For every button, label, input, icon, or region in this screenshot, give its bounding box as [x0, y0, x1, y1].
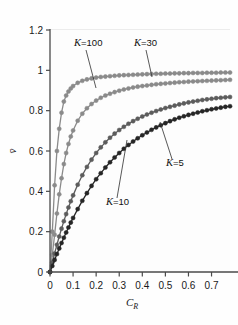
line-chart: 00.20.40.60.811.200.10.20.30.40.50.60.7 … — [0, 0, 238, 325]
data-point — [89, 158, 93, 162]
data-point — [80, 112, 84, 116]
data-point — [76, 119, 80, 123]
data-point — [136, 136, 140, 140]
data-point — [140, 72, 144, 76]
data-point — [200, 109, 204, 113]
data-point — [163, 106, 167, 110]
data-point — [140, 133, 144, 137]
data-point — [94, 151, 98, 155]
data-point — [219, 78, 223, 82]
data-point — [168, 81, 172, 85]
data-point — [103, 93, 107, 97]
data-point — [154, 125, 158, 129]
data-point — [59, 176, 63, 180]
data-point — [186, 80, 190, 84]
data-point — [214, 78, 218, 82]
data-point — [71, 216, 75, 220]
data-point — [71, 128, 75, 132]
data-point — [71, 84, 75, 88]
data-point — [59, 111, 63, 115]
data-point — [131, 139, 135, 143]
data-point — [154, 82, 158, 86]
data-point — [173, 117, 177, 121]
data-point — [182, 71, 186, 75]
data-point — [131, 85, 135, 89]
data-point — [209, 71, 213, 75]
data-point — [182, 101, 186, 105]
data-point — [168, 72, 172, 76]
data-point — [122, 87, 126, 91]
data-point — [94, 99, 98, 103]
data-point — [219, 71, 223, 75]
data-point — [205, 71, 209, 75]
data-point — [177, 71, 181, 75]
data-point — [59, 241, 63, 245]
data-point — [66, 142, 70, 146]
data-point — [89, 184, 93, 188]
data-point — [186, 100, 190, 104]
data-point — [85, 106, 89, 110]
data-point — [223, 105, 227, 109]
data-point — [113, 90, 117, 94]
data-point — [62, 162, 66, 166]
data-point — [168, 105, 172, 109]
data-point — [145, 130, 149, 134]
data-point — [69, 134, 73, 138]
data-point — [99, 75, 103, 79]
data-point — [113, 132, 117, 136]
data-point — [99, 171, 103, 175]
data-point — [177, 116, 181, 120]
data-point — [191, 79, 195, 83]
annotation-text: K=30 — [133, 37, 157, 48]
data-point — [136, 85, 140, 89]
data-point — [80, 79, 84, 83]
data-point — [59, 227, 63, 231]
data-point — [196, 110, 200, 114]
data-point — [85, 191, 89, 195]
data-point — [223, 78, 227, 82]
annotation-text: K=5 — [165, 157, 184, 168]
data-point — [191, 100, 195, 104]
data-point — [200, 71, 204, 75]
data-point — [103, 75, 107, 79]
data-point — [177, 80, 181, 84]
data-point — [80, 199, 84, 203]
chart-figure: 00.20.40.60.811.200.10.20.30.40.50.60.7 … — [0, 0, 238, 325]
data-point — [53, 233, 57, 237]
data-point — [64, 93, 68, 97]
data-point — [69, 199, 73, 203]
data-point — [108, 92, 112, 96]
data-point — [159, 82, 163, 86]
data-point — [163, 121, 167, 125]
data-point — [126, 143, 130, 147]
data-point — [149, 111, 153, 115]
data-point — [117, 73, 121, 77]
data-point — [122, 125, 126, 129]
y-tick-label: 0.6 — [29, 146, 43, 157]
data-point — [126, 86, 130, 90]
data-point — [228, 104, 232, 108]
y-tick-label: 0 — [37, 267, 43, 278]
data-point — [57, 192, 61, 196]
data-point — [103, 165, 107, 169]
data-point — [196, 71, 200, 75]
data-point — [149, 128, 153, 132]
data-point — [177, 102, 181, 106]
data-point — [131, 119, 135, 123]
data-point — [219, 106, 223, 110]
data-point — [205, 79, 209, 83]
data-point — [103, 140, 107, 144]
x-tick-label: 0.6 — [182, 280, 196, 291]
data-point — [173, 71, 177, 75]
data-point — [205, 97, 209, 101]
data-point — [223, 95, 227, 99]
data-point — [71, 193, 75, 197]
data-point — [126, 122, 130, 126]
data-point — [200, 79, 204, 83]
data-point — [136, 73, 140, 77]
data-point — [99, 96, 103, 100]
data-point — [223, 71, 227, 75]
data-point — [168, 119, 172, 123]
data-point — [62, 100, 66, 104]
x-tick-label: 0.5 — [158, 280, 172, 291]
